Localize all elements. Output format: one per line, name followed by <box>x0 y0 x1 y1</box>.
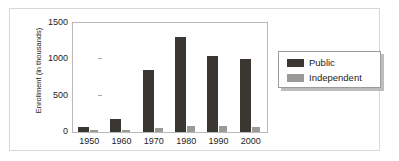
x-tick-label: 2000 <box>235 136 267 146</box>
bar-public-1970 <box>143 70 154 132</box>
independent-swatch-icon <box>287 74 304 82</box>
chart-figure: Enrollment (in thousands) 050010001500 1… <box>0 0 399 161</box>
legend-label-independent: Independent <box>309 73 362 83</box>
y-tick-label: 0 <box>28 127 68 136</box>
bar-group <box>235 23 267 132</box>
y-tick-label: 1000 <box>28 54 68 63</box>
bar-group <box>138 23 170 132</box>
bar-public-2000 <box>240 59 251 132</box>
y-tick-label: 500 <box>28 91 68 100</box>
bar-group <box>73 23 105 132</box>
bar-independent-1950 <box>90 130 98 132</box>
x-tick-label: 1950 <box>73 136 105 146</box>
x-tick-label: 1990 <box>202 136 234 146</box>
x-axis-ticks: 195019601970198019902000 <box>73 136 267 150</box>
y-axis-ticks: 050010001500 <box>26 22 68 133</box>
bar-group <box>105 23 137 132</box>
bar-public-1950 <box>78 127 89 132</box>
chart-legend: Public Independent <box>278 51 381 88</box>
bar-independent-2000 <box>252 127 260 132</box>
bar-independent-1970 <box>155 128 163 132</box>
bar-group <box>170 23 202 132</box>
x-tick-label: 1960 <box>105 136 137 146</box>
x-tick-label: 1970 <box>138 136 170 146</box>
x-tick-label: 1980 <box>170 136 202 146</box>
bar-series-container <box>73 23 267 132</box>
y-tick-label: 1500 <box>28 18 68 27</box>
legend-entry-public: Public <box>287 56 335 69</box>
bar-public-1990 <box>207 56 218 132</box>
bar-group <box>202 23 234 132</box>
legend-label-public: Public <box>309 58 335 68</box>
legend-entry-independent: Independent <box>287 71 362 84</box>
bar-public-1980 <box>175 37 186 132</box>
bar-public-1960 <box>110 119 121 132</box>
bar-independent-1960 <box>122 130 130 132</box>
bar-independent-1990 <box>219 126 227 132</box>
bar-chart: Enrollment (in thousands) 050010001500 1… <box>0 0 399 161</box>
bar-independent-1980 <box>187 126 195 132</box>
public-swatch-icon <box>287 59 304 67</box>
